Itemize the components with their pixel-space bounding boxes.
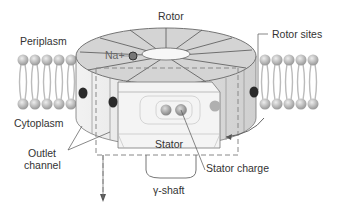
gamma-shaft [146, 155, 196, 178]
rotor-site-right [250, 87, 259, 98]
label-stator: Stator [155, 138, 184, 150]
rotary-motor-diagram: Rotor Periplasm Rotor sites Na+ Cytoplas… [0, 0, 344, 212]
label-stator-charge: Stator charge [206, 162, 269, 174]
label-sodium-ion: Na+ [105, 49, 125, 61]
sodium-ion [129, 52, 137, 60]
label-outlet-channel-2: channel [24, 159, 61, 171]
rotor-site-left-inner [109, 97, 118, 108]
label-outlet-channel-1: Outlet [28, 147, 56, 159]
membrane-right [260, 55, 319, 110]
stator-charge-right [210, 101, 221, 112]
label-cytoplasm: Cytoplasm [14, 117, 64, 129]
label-periplasm: Periplasm [20, 35, 67, 47]
label-gamma-shaft: γ-shaft [153, 184, 185, 196]
rotor-site-left-outer [79, 88, 88, 99]
label-rotor: Rotor [158, 10, 184, 22]
label-rotor-sites: Rotor sites [272, 28, 322, 40]
stator-charge-left [161, 105, 172, 116]
rotor-center-hole [142, 48, 190, 60]
membrane-left [18, 55, 77, 110]
